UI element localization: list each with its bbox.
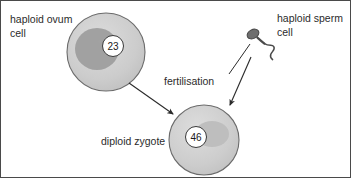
sperm-cell-group [245, 27, 274, 59]
arrow-ovum-to-zygote [129, 83, 173, 114]
sperm-tail [264, 44, 274, 60]
ovum-cell-group: 23 [67, 13, 145, 91]
arrow-sperm-to-zygote [230, 57, 251, 105]
sperm-label-line2: cell [277, 26, 293, 38]
fertilisation-diagram: 23 haploid ovum cell haploid sperm cell … [0, 0, 351, 178]
ovum-chromosome-count: 23 [107, 41, 119, 52]
ovum-label: haploid ovum cell [10, 13, 73, 39]
diagram-canvas: 23 haploid ovum cell haploid sperm cell … [1, 1, 351, 178]
sperm-label-line1: haploid sperm [277, 12, 343, 24]
zygote-label: diploid zygote [101, 135, 165, 147]
ovum-label-line2: cell [10, 27, 26, 39]
ovum-label-line1: haploid ovum [10, 13, 73, 25]
zygote-cell-group: 46 [169, 105, 239, 175]
sperm-label: haploid sperm cell [277, 12, 343, 38]
sperm-label-leader-line [229, 44, 250, 74]
fertilisation-label: fertilisation [164, 75, 214, 87]
sperm-midpiece [257, 38, 264, 44]
zygote-chromosome-count: 46 [190, 132, 202, 143]
